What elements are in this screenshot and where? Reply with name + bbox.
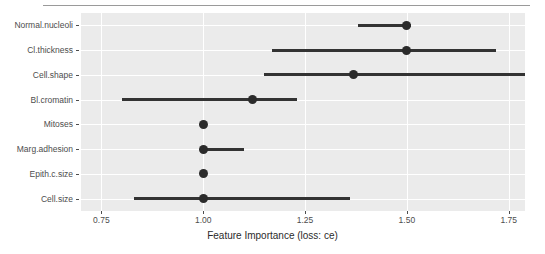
x-axis-tick bbox=[407, 211, 408, 214]
y-axis-tick-label: Cell.shape bbox=[33, 71, 73, 80]
plot-panel bbox=[81, 13, 525, 211]
x-gridline bbox=[407, 13, 408, 211]
point-marker bbox=[199, 145, 208, 154]
x-axis-tick bbox=[509, 211, 510, 214]
x-axis-tick-label: 0.75 bbox=[93, 216, 110, 225]
point-marker bbox=[402, 21, 411, 30]
y-axis-tick bbox=[76, 50, 79, 51]
x-axis-tick bbox=[203, 211, 204, 214]
x-axis-title: Feature Importance (loss: ce) bbox=[0, 231, 545, 241]
y-gridline bbox=[81, 174, 525, 175]
interval-bar bbox=[264, 73, 525, 76]
point-marker bbox=[199, 169, 208, 178]
x-axis-tick-label: 1.50 bbox=[399, 216, 416, 225]
y-axis-tick-label: Cl.thickness bbox=[27, 46, 73, 55]
interval-bar bbox=[122, 98, 297, 101]
x-gridline bbox=[509, 13, 510, 211]
y-axis-labels: Normal.nucleoliCl.thicknessCell.shapeBl.… bbox=[0, 13, 73, 211]
y-axis-tick-label: Cell.size bbox=[41, 194, 73, 203]
interval-bar bbox=[203, 148, 244, 151]
interval-bar bbox=[272, 49, 496, 52]
y-axis-tick bbox=[76, 174, 79, 175]
y-axis-tick-label: Epith.c.size bbox=[30, 170, 73, 179]
y-axis-tick-label: Bl.cromatin bbox=[30, 95, 73, 104]
interval-bar bbox=[134, 197, 350, 200]
x-axis-tick-label: 1.00 bbox=[195, 216, 212, 225]
y-axis-tick-label: Marg.adhesion bbox=[17, 145, 73, 154]
y-axis-tick bbox=[76, 25, 79, 26]
point-marker bbox=[199, 120, 208, 129]
x-axis-tick-label: 1.25 bbox=[297, 216, 314, 225]
y-gridline bbox=[81, 149, 525, 150]
x-axis-tick bbox=[305, 211, 306, 214]
x-axis-tick bbox=[101, 211, 102, 214]
point-marker bbox=[248, 95, 257, 104]
y-axis-tick bbox=[76, 124, 79, 125]
y-axis-tick bbox=[76, 100, 79, 101]
y-axis-tick bbox=[76, 199, 79, 200]
y-axis-tick bbox=[76, 75, 79, 76]
point-marker bbox=[199, 194, 208, 203]
header-divider bbox=[43, 5, 530, 6]
point-marker bbox=[349, 70, 358, 79]
y-gridline bbox=[81, 25, 525, 26]
y-gridline bbox=[81, 124, 525, 125]
x-gridline bbox=[203, 13, 204, 211]
x-gridline bbox=[101, 13, 102, 211]
y-axis-tick-label: Normal.nucleoli bbox=[14, 21, 73, 30]
y-axis-tick bbox=[76, 149, 79, 150]
y-axis-tick-label: Mitoses bbox=[44, 120, 73, 129]
point-marker bbox=[402, 46, 411, 55]
feature-importance-chart: Normal.nucleoliCl.thicknessCell.shapeBl.… bbox=[0, 0, 545, 254]
x-gridline bbox=[305, 13, 306, 211]
x-axis-tick-label: 1.75 bbox=[500, 216, 517, 225]
